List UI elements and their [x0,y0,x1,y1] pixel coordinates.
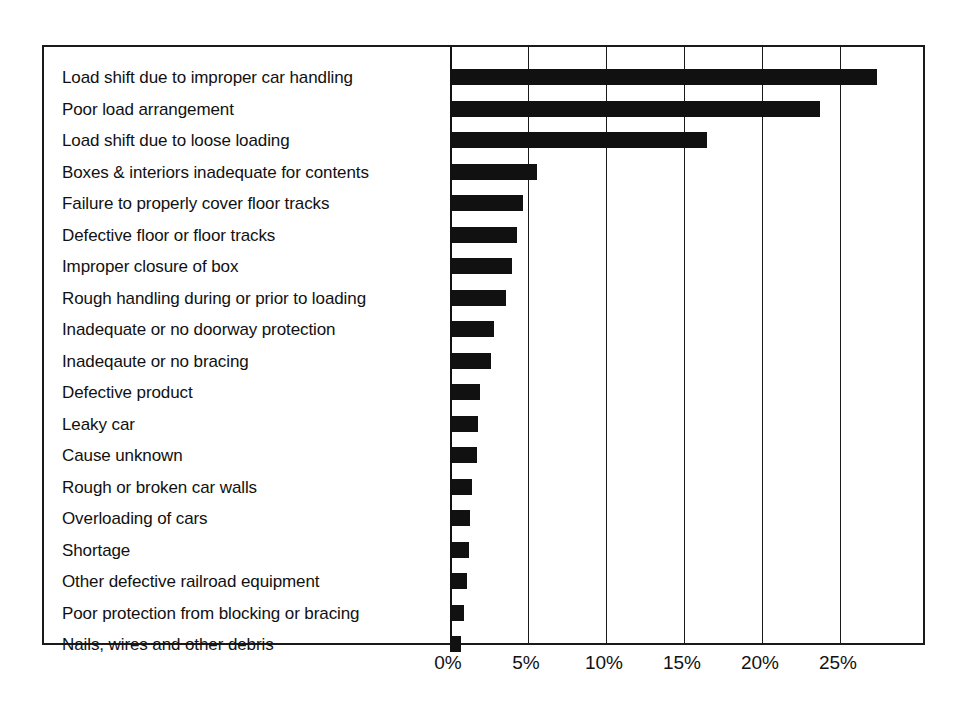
category-label: Shortage [62,535,130,567]
bar [450,447,477,463]
x-tick-label: 0% [434,650,461,676]
bar [450,321,494,337]
chart-row: Boxes & interiors inadequate for content… [44,157,923,189]
category-rows: Load shift due to improper car handlingP… [44,47,923,643]
x-axis-tick-labels: 0%5%10%15%20%25% [42,650,925,680]
chart-row: Inadequate or no doorway protection [44,314,923,346]
chart-row: Leaky car [44,409,923,441]
chart-row: Other defective railroad equipment [44,566,923,598]
category-label: Poor load arrangement [62,94,234,126]
bar [450,290,506,306]
chart-row: Inadeqaute or no bracing [44,346,923,378]
bar [450,384,480,400]
category-label: Failure to properly cover floor tracks [62,188,329,220]
x-tick-label: 25% [819,650,857,676]
bar [450,101,820,117]
x-tick-label: 15% [663,650,701,676]
chart-row: Cause unknown [44,440,923,472]
bar [450,510,470,526]
bar [450,479,472,495]
category-label: Rough or broken car walls [62,472,257,504]
category-label: Inadeqaute or no bracing [62,346,249,378]
chart-row: Shortage [44,535,923,567]
chart-row: Defective floor or floor tracks [44,220,923,252]
bar [450,164,537,180]
category-label: Improper closure of box [62,251,238,283]
chart-row: Poor protection from blocking or bracing [44,598,923,630]
bar [450,416,478,432]
bar [450,132,707,148]
category-label: Inadequate or no doorway protection [62,314,335,346]
category-label: Cause unknown [62,440,183,472]
plot-frame: Load shift due to improper car handlingP… [42,45,925,645]
chart-row: Load shift due to loose loading [44,125,923,157]
chart-row: Rough handling during or prior to loadin… [44,283,923,315]
category-label: Load shift due to improper car handling [62,62,353,94]
category-label: Boxes & interiors inadequate for content… [62,157,369,189]
bar [450,542,469,558]
bar [450,353,491,369]
chart-row: Load shift due to improper car handling [44,62,923,94]
bar [450,227,517,243]
chart-row: Improper closure of box [44,251,923,283]
chart-row: Failure to properly cover floor tracks [44,188,923,220]
bar [450,195,523,211]
x-tick-label: 10% [585,650,623,676]
category-label: Overloading of cars [62,503,208,535]
chart-row: Poor load arrangement [44,94,923,126]
bar [450,573,467,589]
bar [450,605,464,621]
x-tick-label: 5% [512,650,539,676]
category-label: Defective floor or floor tracks [62,220,275,252]
category-label: Rough handling during or prior to loadin… [62,283,366,315]
category-label: Defective product [62,377,193,409]
x-tick-label: 20% [741,650,779,676]
category-label: Leaky car [62,409,135,441]
chart-row: Rough or broken car walls [44,472,923,504]
category-label: Other defective railroad equipment [62,566,319,598]
chart-row: Overloading of cars [44,503,923,535]
bar [450,258,512,274]
bar-chart-figure: Load shift due to improper car handlingP… [0,0,969,725]
chart-row: Defective product [44,377,923,409]
category-label: Load shift due to loose loading [62,125,290,157]
category-label: Poor protection from blocking or bracing [62,598,359,630]
bar [450,69,877,85]
